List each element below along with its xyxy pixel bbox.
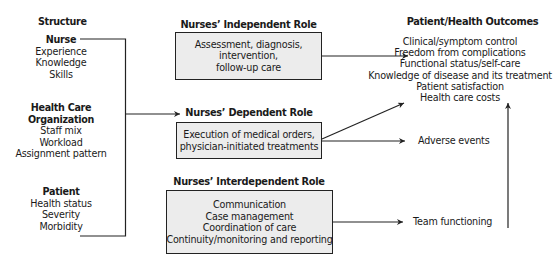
outcome-item: Patient satisfaction	[360, 81, 553, 92]
group-item: Experience	[5, 46, 117, 58]
dependent-role-title: Nurses’ Dependent Role	[176, 107, 322, 118]
group-item: Workload	[5, 137, 117, 149]
structure-group-nurse: Nurse Experience Knowledge Skills	[5, 34, 117, 80]
group-title: Patient	[5, 186, 117, 198]
role-activity: intervention,	[219, 50, 278, 62]
group-item: Staff mix	[5, 125, 117, 137]
independent-role-box: Assessment, diagnosis, intervention, fol…	[175, 32, 322, 80]
group-title: Nurse	[5, 34, 117, 46]
role-activity: Coordination of care	[203, 222, 296, 234]
arrow-dependent-to-outcomes	[322, 103, 404, 139]
structure-heading: Structure	[38, 16, 87, 27]
dependent-role-box: Execution of medical orders, physician-i…	[176, 122, 322, 159]
outcome-item: Freedom from complications	[360, 47, 553, 58]
role-activity: Execution of medical orders,	[183, 129, 314, 141]
outcome-item: Functional status/self-care	[360, 58, 553, 69]
role-activity: physician-initiated treatments	[180, 141, 319, 153]
group-item: Health status	[5, 198, 117, 210]
outcome-item: Health care costs	[360, 92, 553, 103]
group-item: Assignment pattern	[5, 148, 117, 160]
outcome-item: Knowledge of disease and its treatment	[360, 70, 553, 81]
outcomes-heading: Patient/Health Outcomes	[395, 16, 550, 27]
structure-group-organization: Health Care Organization Staff mix Workl…	[5, 102, 117, 160]
role-activity: Communication	[213, 199, 286, 211]
outcome-item: Clinical/symptom control	[360, 36, 553, 47]
adverse-events-label: Adverse events	[418, 135, 489, 146]
group-title: Health Care	[5, 102, 117, 114]
independent-role-title: Nurses’ Independent Role	[175, 19, 322, 30]
structure-group-patient: Patient Health status Severity Morbidity	[5, 186, 117, 232]
group-item: Knowledge	[5, 57, 117, 69]
group-item: Morbidity	[5, 221, 117, 233]
team-functioning-label: Team functioning	[413, 216, 492, 227]
group-title: Organization	[5, 114, 117, 126]
role-activity: Continuity/monitoring and reporting	[166, 234, 332, 246]
outcomes-list: Clinical/symptom control Freedom from co…	[360, 36, 553, 103]
role-activity: Assessment, diagnosis,	[195, 39, 303, 51]
role-activity: follow-up care	[216, 62, 281, 74]
interdependent-role-box: Communication Case management Coordinati…	[166, 190, 333, 254]
group-item: Skills	[5, 69, 117, 81]
group-item: Severity	[5, 209, 117, 221]
role-activity: Case management	[206, 211, 294, 223]
interdependent-role-title: Nurses’ Interdependent Role	[166, 176, 332, 187]
